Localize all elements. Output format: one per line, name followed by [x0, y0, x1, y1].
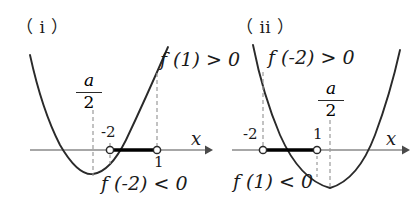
panel-ii-condition-f-at-one: f (1) < 0 [233, 172, 313, 191]
panel-ii-vertex-fraction: a 2 [318, 80, 344, 120]
panel-ii-x-axis-arrowhead [402, 146, 410, 155]
panel-ii-x-axis-label: x [386, 130, 396, 148]
panel-i-x-axis-arrowhead [205, 146, 213, 155]
panel-ii-condition-f-at-minus-two: f (-2) > 0 [268, 48, 355, 67]
panel-ii-vertex-fraction-denominator: 2 [318, 102, 344, 120]
panel-i-condition-f-at-one: f (1) > 0 [160, 50, 240, 69]
panel-i-vertex-fraction: a 2 [76, 72, 102, 112]
panel-ii-tick-label-minus-two: -2 [243, 127, 258, 142]
figure-container: （ i ） a 2 -2 1 f (1) > 0 f (-2) < 0 x （ … [0, 0, 420, 216]
panel-ii-marker-minus-two [259, 146, 266, 153]
panel-i-marker-minus-two [106, 146, 113, 153]
panel-ii-marker-one [313, 146, 320, 153]
panel-i-x-axis-label: x [191, 130, 201, 148]
panel-ii-tick-label-one: 1 [313, 127, 323, 142]
panel-i-vertex-fraction-denominator: 2 [76, 94, 102, 112]
panel-ii-tag: （ ii ） [236, 19, 295, 36]
panel-i-vertex-fraction-numerator: a [76, 72, 102, 90]
panel-i-tick-label-minus-two: -2 [101, 125, 116, 140]
panel-i-tick-label-one: 1 [154, 155, 164, 170]
panel-ii-vertex-fraction-numerator: a [318, 80, 344, 98]
panel-i-condition-f-at-minus-two: f (-2) < 0 [101, 174, 188, 193]
panel-i-tag: （ i ） [16, 19, 69, 36]
